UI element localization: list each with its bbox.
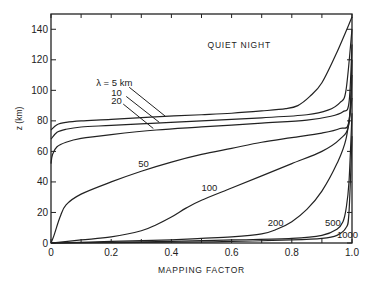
y-tick-label: 120 [31,54,48,65]
y-tick-label: 80 [37,115,49,126]
x-tick-label: 0.8 [285,247,299,258]
series-line [51,45,352,164]
y-tick-label: 140 [31,24,48,35]
chart-title: QUIET NIGHT [208,40,271,50]
curve-label: 500 [325,217,341,228]
x-axis-label: MAPPING FACTOR [158,265,245,275]
y-tick-label: 60 [37,146,49,157]
curve-label: 200 [268,217,284,228]
x-tick-label: 0 [48,247,54,258]
y-tick-label: 0 [42,238,48,249]
chart-canvas: 00.20.40.60.81.0020406080100120140MAPPIN… [0,0,375,283]
y-tick-label: 20 [37,207,49,218]
x-tick-label: 0.2 [104,247,118,258]
x-tick-label: 1.0 [345,247,359,258]
series-line [51,113,352,243]
curve-label: 50 [138,158,149,169]
x-tick-label: 0.6 [225,247,239,258]
curve-label: 1000 [337,229,358,240]
curve-label: λ = 5 km [96,77,132,88]
y-tick-label: 40 [37,176,49,187]
y-tick-label: 100 [31,85,48,96]
y-axis-label: z (km) [14,107,24,131]
leader-line [129,87,165,116]
x-tick-label: 0.4 [164,247,178,258]
series-line [51,17,352,130]
curve-label: 100 [202,182,218,193]
curve-label: 20 [111,95,122,106]
series-line [51,75,352,243]
chart: 00.20.40.60.81.0020406080100120140MAPPIN… [0,0,375,283]
